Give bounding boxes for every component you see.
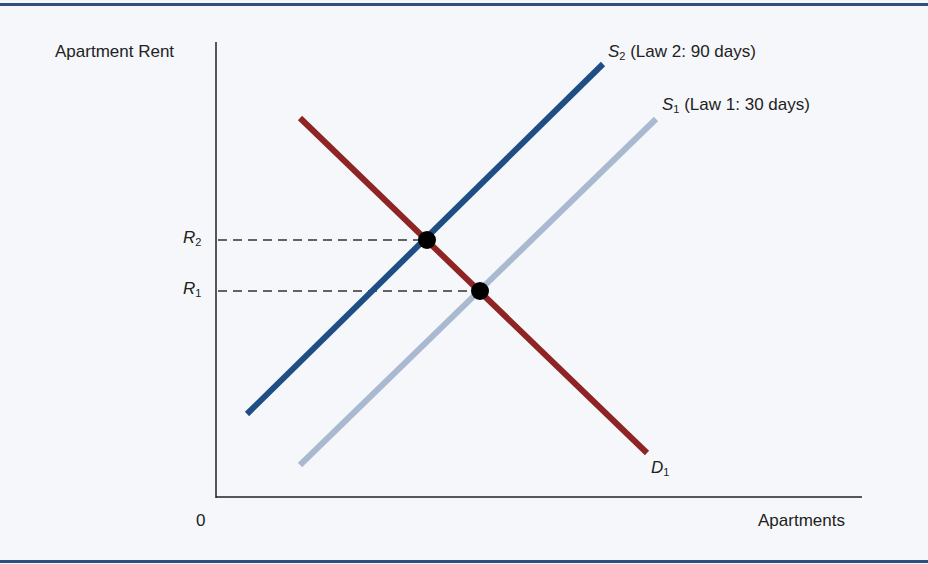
- d1-label: D1: [651, 458, 669, 478]
- s2-label: S2 (Law 2: 90 days): [608, 42, 756, 62]
- equilibrium-point-r1: [471, 282, 489, 300]
- origin-label: 0: [196, 511, 205, 531]
- x-axis-label: Apartments: [758, 511, 845, 531]
- supply-demand-chart: [0, 0, 928, 564]
- equilibrium-point-r2: [418, 231, 436, 249]
- y-axis-label: Apartment Rent: [55, 42, 174, 62]
- r2-label: R2: [183, 228, 201, 248]
- r1-label: R1: [183, 279, 201, 299]
- s1-label: S1 (Law 1: 30 days): [662, 95, 810, 115]
